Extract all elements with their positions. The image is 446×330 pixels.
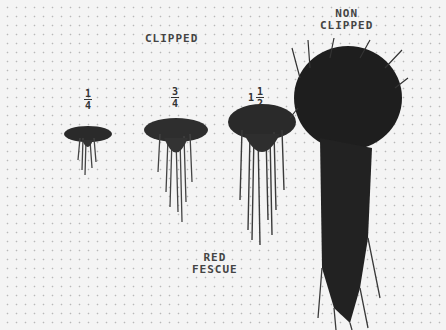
specimen-1-root-mass [60,120,120,190]
specimen-2-label: 3 4 [171,86,179,109]
specimen-2-root-mass [140,112,215,227]
non-clipped-label: NON CLIPPED [320,8,373,32]
clipped-label: CLIPPED [145,33,198,45]
specimen-1-label: 1 4 [84,88,92,111]
specimen-4-root-mass [290,38,410,330]
caption-red-fescue: RED FESCUE [192,252,238,276]
